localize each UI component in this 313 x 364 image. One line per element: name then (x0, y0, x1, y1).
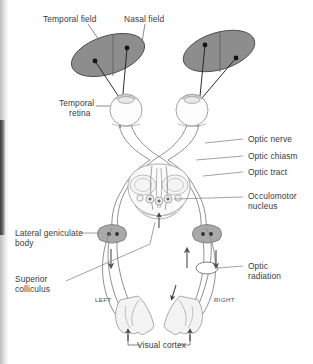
left-lateral-geniculate-body (98, 225, 127, 244)
right-lateral-geniculate-body (193, 225, 222, 244)
label-lateral-geniculate-body-line2: body (15, 238, 34, 248)
label-occulomotor-nucleus-line1: Occulomotor (248, 191, 297, 201)
label-optic-radiation-line1: Optic (248, 261, 268, 271)
visual-pathway-illustration (0, 0, 313, 364)
right-eye (176, 94, 208, 127)
label-optic-nerve: Optic nerve (248, 134, 292, 144)
label-optic-chiasm: Optic chiasm (248, 151, 298, 161)
label-superior-colliculus-line2: colliculus (15, 284, 50, 294)
label-nasal-field: Nasal field (124, 14, 164, 24)
left-eye (110, 94, 142, 127)
midbrain (128, 164, 190, 219)
right-visual-field-ellipse (178, 22, 260, 79)
label-visual-cortex: Visual cortex (137, 340, 186, 350)
left-visual-field-ellipse (66, 25, 150, 85)
figure-canvas: Temporal field Nasal field Temporal reti… (0, 0, 313, 364)
label-temporal-field: Temporal field (43, 14, 97, 24)
label-side-right: RIGHT (214, 295, 235, 305)
label-temporal-retina-line1: Temporal (59, 98, 94, 108)
label-optic-tract: Optic tract (248, 167, 287, 177)
label-side-left: LEFT (95, 295, 112, 305)
label-lateral-geniculate-body-line1: Lateral geniculate (15, 228, 83, 238)
label-occulomotor-nucleus-line2: nucleus (248, 201, 278, 211)
label-superior-colliculus-line1: Superior (15, 274, 47, 284)
label-temporal-retina-line2: retina (69, 108, 91, 118)
left-occipital-cortex (116, 296, 155, 335)
right-occipital-cortex (164, 296, 203, 335)
optic-radiation-marker (196, 262, 218, 274)
label-optic-radiation-line2: radiation (248, 271, 281, 281)
